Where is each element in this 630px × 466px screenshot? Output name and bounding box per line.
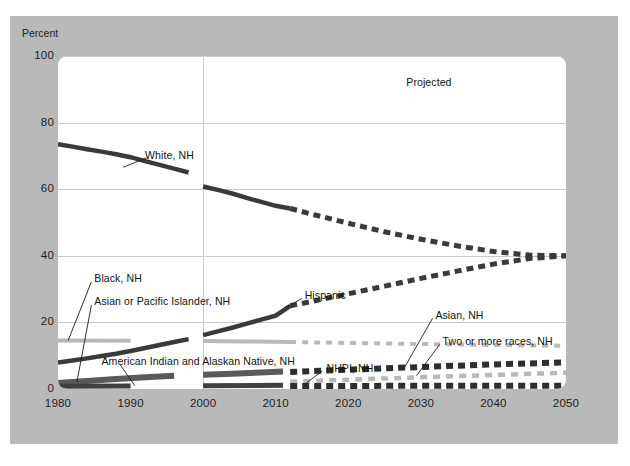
x-tick-2030: 2030 <box>408 397 434 409</box>
y-tick-60: 60 <box>10 182 54 194</box>
annotation-projected: Projected <box>406 76 451 88</box>
leader-line-0 <box>123 158 146 167</box>
x-tick-2050: 2050 <box>553 397 579 409</box>
annotation-asian-nh: Asian, NH <box>435 309 483 321</box>
leader-line-3 <box>120 365 134 386</box>
annotation-nhpi-nh: NHPI, NH <box>327 362 374 374</box>
chart-figure: Percent 020406080100 ProjectedWhite, NHB… <box>0 0 630 466</box>
annotation-black-nh: Black, NH <box>94 272 142 284</box>
leader-line-2 <box>77 305 92 382</box>
x-tick-2040: 2040 <box>480 397 506 409</box>
y-tick-40: 40 <box>10 249 54 261</box>
annotation-american-indian-and-alaskan-native-nh: American Indian and Alaskan Native, NH <box>102 355 295 367</box>
x-tick-1980: 1980 <box>45 397 71 409</box>
leader-line-7 <box>305 371 323 384</box>
x-tick-1990: 1990 <box>117 397 143 409</box>
leader-line-1 <box>68 282 91 341</box>
annotation-two-or-more-races-nh: Two or more races, NH <box>443 335 553 347</box>
leader-line-4 <box>286 298 302 307</box>
plot-area: ProjectedWhite, NHBlack, NHAsian or Paci… <box>58 56 566 389</box>
annotation-asian-or-pacific-islander-nh: Asian or Pacific Islander, NH <box>94 295 230 307</box>
annotation-hispanic: Hispanic <box>305 289 346 301</box>
leader-line-5 <box>403 318 432 369</box>
x-tick-2010: 2010 <box>262 397 288 409</box>
x-tick-2000: 2000 <box>190 397 216 409</box>
y-tick-0: 0 <box>10 382 54 394</box>
leader-line-6 <box>417 344 440 375</box>
x-tick-2020: 2020 <box>335 397 361 409</box>
y-tick-20: 20 <box>10 315 54 327</box>
annotation-white-nh: White, NH <box>145 149 194 161</box>
x-axis-tick-labels: 19801990200020102020203020402050 <box>0 397 630 417</box>
y-tick-80: 80 <box>10 116 54 128</box>
y-tick-100: 100 <box>10 49 54 61</box>
